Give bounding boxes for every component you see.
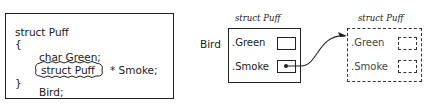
pointed-field-smoke-slot bbox=[398, 60, 417, 73]
pointed-field-smoke-label: .Smoke bbox=[351, 61, 388, 72]
pointed-field-green-slot bbox=[398, 37, 417, 50]
pointed-field-green-label: .Green bbox=[351, 37, 384, 48]
pointed-struct-caption: struct Puff bbox=[358, 13, 403, 23]
pointed-struct-box: .Green .Smoke bbox=[347, 28, 422, 82]
